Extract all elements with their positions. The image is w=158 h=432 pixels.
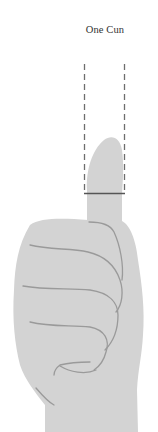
hand-silhouette bbox=[13, 137, 143, 432]
hand-illustration bbox=[0, 0, 158, 432]
